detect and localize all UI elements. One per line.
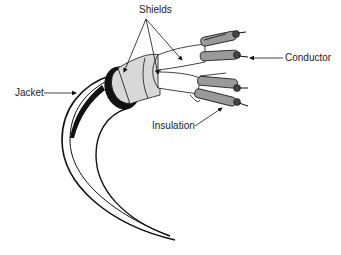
wire-3 (197, 76, 248, 92)
wire-4 (194, 88, 248, 107)
wire-1 (200, 31, 246, 47)
label-jacket: Jacket (15, 87, 44, 98)
label-shields: Shields (139, 4, 172, 15)
label-conductor: Conductor (285, 52, 331, 63)
insulated-wires (194, 31, 248, 107)
label-insulation: Insulation (152, 120, 195, 131)
shield-foil (118, 44, 205, 104)
cable-diagram: Shields Conductor Jacket Insulation (0, 0, 341, 255)
wire-2 (200, 50, 248, 61)
